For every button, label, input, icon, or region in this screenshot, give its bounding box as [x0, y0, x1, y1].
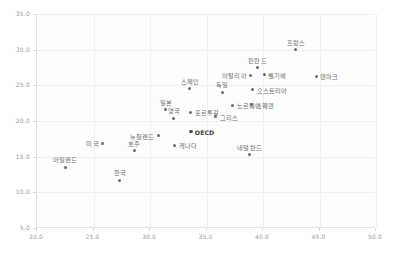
y-tick-mark — [33, 14, 36, 15]
y-axis-tick-label: 20.0 — [2, 117, 30, 124]
y-axis-tick-label: 10.0 — [2, 188, 30, 195]
gridline-vertical — [207, 14, 208, 227]
gridline-vertical — [150, 14, 151, 227]
x-tick-mark — [206, 228, 207, 231]
data-point-label: 핀란드 — [248, 56, 266, 65]
data-point-label: 뉴질랜드 — [130, 131, 154, 140]
data-point[interactable] — [101, 142, 104, 145]
x-axis-tick-label: 20.0 — [21, 233, 51, 240]
x-tick-mark — [149, 228, 150, 231]
y-axis-tick-label: 5.0 — [2, 224, 30, 231]
plot-area — [36, 14, 375, 228]
y-axis-tick-label: 25.0 — [2, 81, 30, 88]
data-point-label: 한국 — [114, 168, 126, 177]
data-point-label: 스웨덴 — [256, 100, 274, 109]
data-point-label: 영국 — [168, 106, 180, 115]
gridline-vertical — [320, 14, 321, 227]
gridline-vertical — [263, 14, 264, 227]
y-tick-mark — [33, 192, 36, 193]
x-axis-tick-label: 50.0 — [360, 233, 390, 240]
data-point-label: OECD — [195, 128, 215, 135]
x-tick-mark — [319, 228, 320, 231]
gridline-vertical — [94, 14, 95, 227]
data-point-label: 벨기에 — [268, 70, 286, 79]
data-point[interactable] — [118, 179, 121, 182]
data-point-label: 프랑스 — [287, 38, 305, 47]
data-point-label: 덴마크 — [320, 72, 338, 81]
y-axis-tick-label: 15.0 — [2, 153, 30, 160]
x-axis-tick-label: 45.0 — [304, 233, 334, 240]
gridline-vertical — [376, 14, 377, 227]
data-point[interactable] — [315, 75, 318, 78]
y-tick-mark — [33, 157, 36, 158]
data-point-label: 스페인 — [181, 77, 199, 86]
data-point[interactable] — [64, 166, 67, 169]
x-tick-mark — [93, 228, 94, 231]
x-axis-tick-label: 25.0 — [78, 233, 108, 240]
data-point-label: 네덜란드 — [237, 143, 261, 152]
data-point-label: 오스트리아 — [257, 85, 288, 94]
x-tick-mark — [262, 228, 263, 231]
scatter-chart: 5.010.015.020.025.030.035.020.025.030.03… — [0, 0, 393, 255]
data-point-label: 독일 — [216, 80, 228, 89]
data-point-label: 캐나다 — [179, 141, 197, 150]
data-point-label: 아일랜드 — [53, 155, 77, 164]
x-tick-mark — [36, 228, 37, 231]
x-tick-mark — [375, 228, 376, 231]
y-axis-tick-label: 30.0 — [2, 46, 30, 53]
data-point[interactable] — [221, 91, 224, 94]
data-point-label: 이탈리아 — [222, 71, 246, 80]
data-point[interactable] — [231, 104, 234, 107]
y-tick-mark — [33, 85, 36, 86]
x-axis-tick-label: 35.0 — [191, 233, 221, 240]
data-point[interactable] — [263, 73, 266, 76]
y-tick-mark — [33, 50, 36, 51]
data-point[interactable] — [256, 66, 259, 69]
x-axis-tick-label: 40.0 — [247, 233, 277, 240]
data-point-label: 그리스 — [220, 112, 238, 121]
y-axis-tick-label: 35.0 — [2, 10, 30, 17]
x-axis-tick-label: 30.0 — [134, 233, 164, 240]
y-tick-mark — [33, 121, 36, 122]
data-point[interactable] — [189, 130, 192, 133]
data-point-label: 미국 — [86, 139, 98, 148]
